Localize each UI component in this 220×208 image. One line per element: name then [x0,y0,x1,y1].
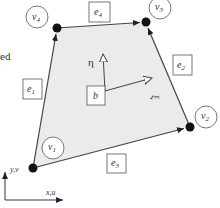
center-label-b: b [87,86,105,105]
global-x-label: x,u [45,188,56,197]
vertex-label-v3: v3 [149,0,171,19]
edge-label-e2: e2 [173,55,192,75]
global-y-label: y,v [9,165,19,174]
vertex-node-v3 [142,18,151,27]
vertex-node-v2 [186,123,195,132]
edge-label-e4: e4 [89,2,110,22]
element-diagram: v4 v3 v2 v1 e4 e2 e1 e3 η ξ b y,v x,u [0,0,220,208]
edge-label-e1: e1 [23,79,42,99]
eta-label: η [88,56,94,68]
partial-caption-text: ed [0,50,11,62]
vertex-label-v4: v4 [26,6,48,28]
vertex-node-v4 [53,24,62,33]
vertex-label-v1: v1 [42,137,64,159]
svg-text:b: b [93,90,98,101]
xi-label: ξ [149,95,161,100]
vertex-node-v1 [29,164,38,173]
vertex-label-v2: v2 [195,106,217,128]
edge-label-e3: e3 [107,154,126,173]
